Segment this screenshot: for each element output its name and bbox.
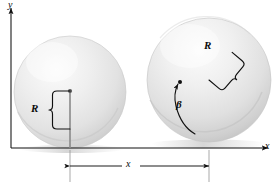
radius-label-right: R [204,40,211,51]
figure-canvas: y x R R β x [0,0,278,189]
displacement-dimension-label: x [126,159,130,169]
sphere-rolled [147,17,271,142]
radius-label-left: R [31,103,38,114]
displacement-dimension [70,150,209,182]
diagram-svg [0,0,278,189]
y-axis-label: y [8,0,12,10]
x-axis-label: x [265,141,269,151]
rotation-angle-label: β [176,99,182,110]
